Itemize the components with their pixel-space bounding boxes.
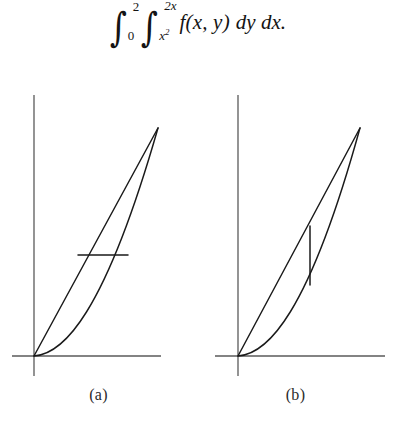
inner-lower-limit: x2: [159, 28, 171, 42]
inner-integral-limits: 2xx2: [161, 8, 173, 35]
outer-upper-limit: 2: [133, 0, 140, 13]
integral-formula: ∫20∫2xx2f(x, y)dy dx.: [0, 8, 394, 44]
inner-lower-limit-exponent: 2: [165, 27, 169, 37]
outer-lower-limit: 0: [128, 29, 135, 42]
panel-a: [0, 88, 197, 388]
integrand: f(x, y): [179, 10, 229, 34]
caption-a: (a): [0, 386, 197, 404]
caption-b: (b): [197, 386, 394, 404]
outer-integral-limits: 20: [130, 9, 137, 36]
line-y-equals-2x-a: [34, 128, 158, 356]
differentials: dy dx.: [236, 10, 286, 34]
panel-b: [197, 88, 394, 388]
diagram-a-svg: [0, 88, 197, 388]
figure-root: ∫20∫2xx2f(x, y)dy dx.: [0, 0, 394, 427]
line-y-equals-2x-b: [238, 128, 360, 356]
inner-integral-sign: ∫: [141, 10, 158, 44]
outer-integral-sign: ∫: [110, 10, 127, 44]
inner-upper-limit: 2x: [164, 0, 176, 12]
diagram-b-svg: [197, 88, 394, 388]
